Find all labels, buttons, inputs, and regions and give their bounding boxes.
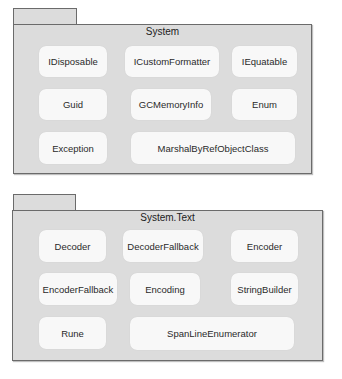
package-system-text[interactable]: System.Text Decoder DecoderFallback Enco… bbox=[12, 210, 323, 361]
package-tab-system bbox=[13, 8, 77, 25]
class-box[interactable]: EncoderFallback bbox=[39, 273, 117, 305]
class-box[interactable]: Decoder bbox=[39, 230, 106, 262]
class-box[interactable]: IEquatable bbox=[232, 46, 297, 77]
class-box[interactable]: Encoder bbox=[231, 230, 298, 262]
class-box[interactable]: Rune bbox=[39, 317, 106, 349]
class-box[interactable]: StringBuilder bbox=[231, 273, 298, 305]
class-box[interactable]: SpanLineEnumerator bbox=[130, 317, 294, 350]
package-system[interactable]: System IDisposable ICustomFormatter IEqu… bbox=[13, 24, 312, 174]
class-box[interactable]: IDisposable bbox=[39, 46, 107, 77]
package-title: System bbox=[14, 26, 311, 37]
class-box[interactable]: Enum bbox=[232, 89, 297, 120]
class-box[interactable]: Guid bbox=[39, 89, 107, 120]
class-box[interactable]: Exception bbox=[39, 132, 107, 164]
class-box[interactable]: Encoding bbox=[130, 273, 200, 305]
package-title: System.Text bbox=[13, 212, 322, 223]
class-box[interactable]: GCMemoryInfo bbox=[131, 89, 211, 120]
class-box[interactable]: ICustomFormatter bbox=[125, 46, 219, 77]
class-box[interactable]: DecoderFallback bbox=[123, 230, 203, 262]
package-tab-system-text bbox=[13, 194, 76, 211]
class-box[interactable]: MarshalByRefObjectClass bbox=[131, 132, 295, 164]
